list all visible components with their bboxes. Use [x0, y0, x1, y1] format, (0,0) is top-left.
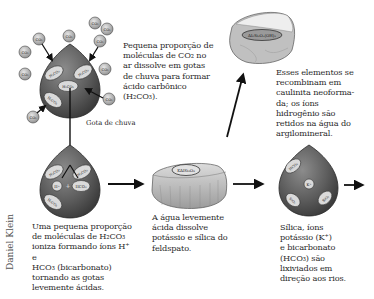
kaolinite-rock: Al₂Si₂O₅(OH)₄ — [230, 12, 295, 63]
raindrop-ionization: H₂CO₃ H₂CO₃ H⁺ + HCO₃ H₂CO₃ — [40, 145, 100, 218]
svg-text:KAlSi₃O₈: KAlSi₃O₈ — [177, 168, 195, 173]
co2-molecule: CO₂ — [19, 46, 31, 58]
svg-text:CO₂: CO₂ — [104, 28, 112, 32]
svg-text:CO₂: CO₂ — [30, 116, 38, 120]
svg-text:CO₂: CO₂ — [97, 40, 105, 44]
co2-molecule: CO₂ — [33, 33, 45, 45]
raindrop-leached: HCO₃ K⁺ SiO₂ SiO₂ — [279, 145, 338, 216]
svg-text:CO₂: CO₂ — [102, 68, 110, 72]
co2-molecule: CO₂ — [89, 17, 101, 29]
co2-molecule: CO₂ — [63, 30, 75, 42]
svg-text:CO₂: CO₂ — [22, 51, 30, 55]
svg-text:K⁺: K⁺ — [307, 182, 312, 187]
caption-step4: Esses elementos se recombinam em caulini… — [276, 67, 374, 138]
co2-molecule: CO₂ — [99, 63, 111, 75]
svg-text:CO₂: CO₂ — [106, 98, 114, 102]
hco3-ion: HCO₃ — [72, 181, 90, 192]
co2-molecule: CO₂ — [94, 35, 106, 47]
svg-text:H₂CO₃: H₂CO₃ — [62, 85, 74, 89]
co2-molecule: CO₂ — [101, 23, 113, 35]
svg-text:Al₂Si₂O₅(OH)₄: Al₂Si₂O₅(OH)₄ — [247, 33, 276, 38]
svg-text:CO₂: CO₂ — [66, 35, 74, 39]
co2-molecule: CO₂ — [103, 93, 115, 105]
svg-text:CO₂: CO₂ — [36, 38, 44, 42]
raindrop-co2-absorption: CO₂ CO₂ CO₂ CO₂ CO₂ CO₂ CO₂ CO₂ CO₂ CO₂ … — [19, 17, 115, 123]
image-credit: Daniel Klein — [5, 212, 15, 272]
caption-step2: Uma pequena proporção de moléculas de H₂… — [32, 221, 132, 292]
raindrop-label: Gota de chuva — [86, 119, 135, 127]
svg-text:HCO₃: HCO₃ — [76, 184, 87, 189]
caption-step1: Pequena proporção de moléculas de CO₂ no… — [123, 40, 238, 101]
co2-molecule: CO₂ — [19, 68, 31, 80]
svg-text:CO₂: CO₂ — [22, 73, 30, 77]
svg-text:H⁺: H⁺ — [54, 184, 59, 189]
k-ion: K⁺ — [304, 179, 314, 189]
h2co3-molecule: H₂CO₃ — [58, 81, 78, 92]
h-ion: H⁺ — [52, 181, 62, 191]
caption-step5: Sílica, íons potássio (K⁺) e bicarbonato… — [280, 222, 370, 283]
caption-step3: A água levemente ácida dissolve potássio… — [152, 212, 247, 253]
svg-text:+: + — [65, 182, 70, 189]
feldspar-rock: KAlSi₃O₈ — [152, 163, 227, 208]
svg-text:CO₂: CO₂ — [92, 22, 100, 26]
